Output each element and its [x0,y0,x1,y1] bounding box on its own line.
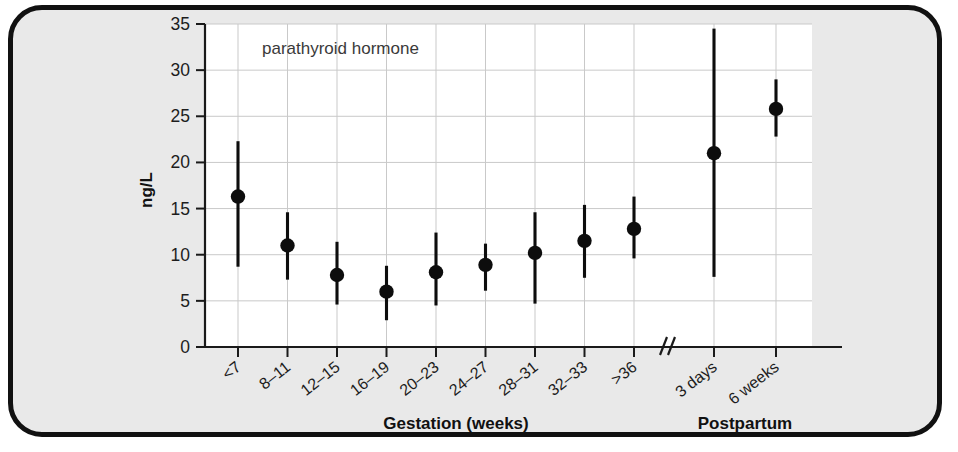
x-tick-label-1: 8–11 [256,358,294,393]
y-axis-ticks: 05101520253035 [171,14,205,357]
data-point-8 [627,222,641,236]
chart-container: 05101520253035 <78–1112–1516–1920–2324–2… [0,0,958,452]
data-point-0 [231,189,245,203]
figure-page: 05101520253035 <78–1112–1516–1920–2324–2… [0,0,958,452]
y-tick-label: 0 [180,337,190,357]
y-tick-label: 20 [171,152,191,172]
y-tick-label: 5 [180,291,190,311]
x-tick-label-3: 16–19 [347,358,393,399]
data-point-2 [330,268,344,282]
x-group-label-gestation: Gestation (weeks) [383,414,529,433]
y-axis-title: ng/L [137,172,156,208]
x-tick-label-4: 20–23 [396,358,442,399]
data-point-6 [528,246,542,260]
x-tick-label-10: 6 weeks [725,358,782,408]
data-point-3 [379,284,393,298]
data-point-1 [280,238,294,252]
data-point-10 [769,102,783,116]
x-tick-label-0: <7 [219,358,244,383]
x-tick-label-7: 32–33 [545,358,591,399]
x-tick-label-8: >36 [608,358,640,388]
y-tick-label: 10 [171,245,191,265]
plot-background [205,24,812,347]
x-group-label-postpartum: Postpartum [698,414,792,433]
chart-annotation: parathyroid hormone [262,39,419,58]
x-tick-label-9: 3 days [672,358,720,400]
x-tick-label-6: 28–31 [495,358,541,399]
y-tick-label: 30 [171,60,191,80]
y-tick-label: 35 [171,14,190,34]
data-point-7 [577,234,591,248]
y-tick-label: 15 [171,199,190,219]
x-tick-label-2: 12–15 [297,358,343,399]
y-tick-label: 25 [171,106,190,126]
x-tick-label-5: 24–27 [446,358,492,399]
parathyroid-hormone-chart: 05101520253035 <78–1112–1516–1920–2324–2… [0,0,958,452]
plot-area [205,24,812,347]
data-point-5 [478,258,492,272]
data-point-9 [707,146,721,160]
data-point-4 [429,265,443,279]
